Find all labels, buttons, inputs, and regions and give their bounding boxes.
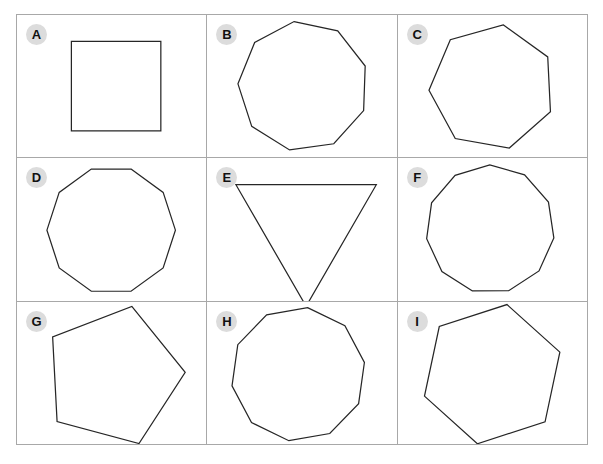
- grid-cell-g[interactable]: G: [17, 302, 207, 445]
- grid-cell-i[interactable]: I: [398, 302, 588, 445]
- shape-grid: ABCDEFGHI: [16, 14, 588, 445]
- cell-label-badge: F: [407, 167, 428, 188]
- cell-label-badge: H: [216, 311, 237, 332]
- grid-cell-e[interactable]: E: [207, 158, 397, 301]
- cell-label-badge: I: [407, 311, 428, 332]
- cell-label-badge: G: [26, 311, 47, 332]
- cell-label-badge: A: [26, 24, 47, 45]
- grid-cell-h[interactable]: H: [207, 302, 397, 445]
- grid-cell-d[interactable]: D: [17, 158, 207, 301]
- grid-cell-f[interactable]: F: [398, 158, 588, 301]
- cell-label-badge: C: [407, 24, 428, 45]
- grid-cell-a[interactable]: A: [17, 15, 207, 158]
- clipped-header-text: [0, 0, 603, 3]
- grid-cell-c[interactable]: C: [398, 15, 588, 158]
- grid-cell-b[interactable]: B: [207, 15, 397, 158]
